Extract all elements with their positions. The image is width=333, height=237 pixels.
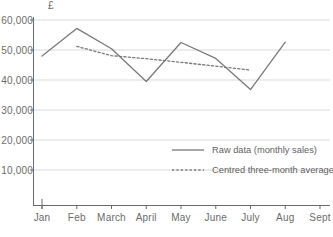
chart-legend: Raw data (monthly sales)Centred three-mo…: [172, 145, 333, 175]
legend-label-1: Centred three-month average: [212, 165, 333, 175]
legend-label-0: Raw data (monthly sales): [212, 145, 317, 155]
line-chart: £ 60,00050,00040,00030,00020,00010,000 J…: [0, 0, 333, 237]
plot-area: Raw data (monthly sales)Centred three-mo…: [0, 0, 333, 237]
axis-lines: [30, 17, 330, 209]
